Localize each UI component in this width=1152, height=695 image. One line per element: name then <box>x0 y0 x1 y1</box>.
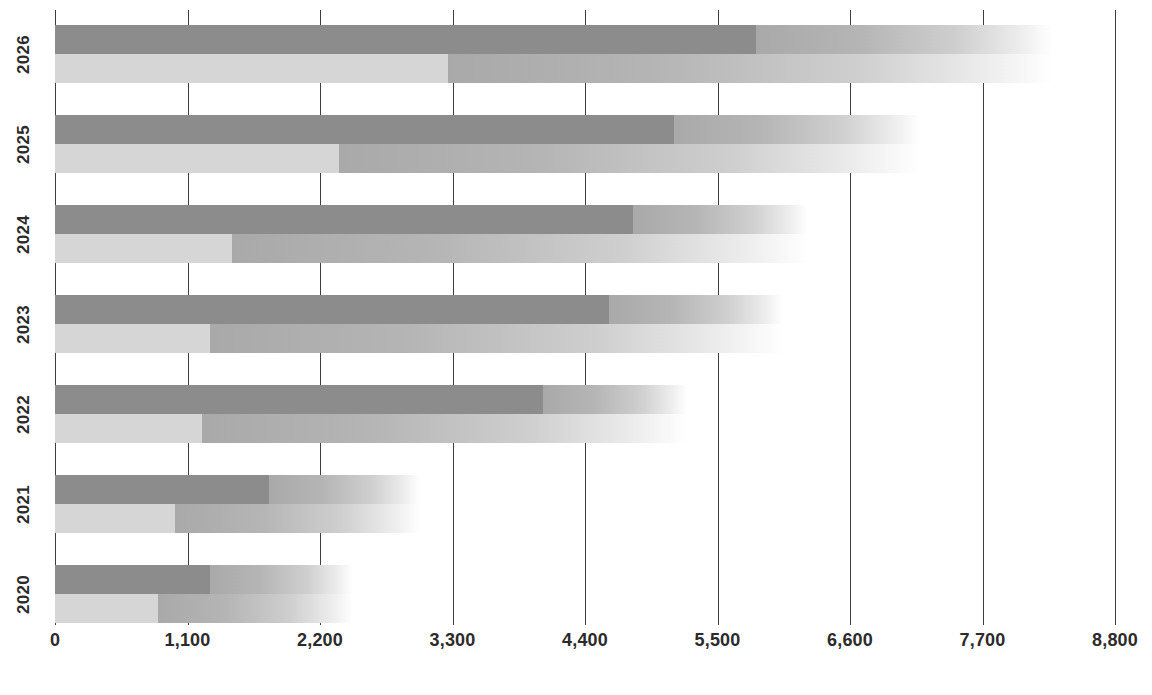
y-axis-label-2024: 2024 <box>0 205 48 263</box>
y-axis-label-2023: 2023 <box>0 295 48 353</box>
bar-upper-projection-2022 <box>543 385 688 414</box>
bar-upper-value-2025 <box>55 115 674 144</box>
bar-upper-2025 <box>55 115 1115 144</box>
x-axis-tick-4400: 4,400 <box>562 630 608 651</box>
bar-upper-value-2020 <box>55 565 210 594</box>
x-axis-tick-1100: 1,100 <box>164 630 210 651</box>
x-axis-tick-3300: 3,300 <box>429 630 475 651</box>
bar-group-2026 <box>55 25 1115 83</box>
bar-group-2022 <box>55 385 1115 443</box>
y-axis-label-2026: 2026 <box>0 25 48 83</box>
bar-chart: 2026202520242023202220212020 01,1002,200… <box>0 0 1152 695</box>
bar-lower-2021 <box>55 504 1115 533</box>
y-axis-label-2020: 2020 <box>0 565 48 623</box>
bar-lower-projection-2026 <box>448 54 1053 83</box>
bar-group-2023 <box>55 295 1115 353</box>
bar-upper-2023 <box>55 295 1115 324</box>
bar-upper-value-2024 <box>55 205 633 234</box>
bar-lower-value-2022 <box>55 414 202 443</box>
bar-lower-2023 <box>55 324 1115 353</box>
bar-upper-projection-2025 <box>674 115 920 144</box>
bar-upper-2024 <box>55 205 1115 234</box>
bar-group-2025 <box>55 115 1115 173</box>
plot-area <box>55 0 1115 625</box>
bar-lower-value-2020 <box>55 594 158 623</box>
bar-lower-value-2026 <box>55 54 448 83</box>
bar-upper-2026 <box>55 25 1115 54</box>
gridline-8800 <box>1115 10 1116 625</box>
bar-lower-value-2024 <box>55 234 232 263</box>
bar-upper-projection-2023 <box>609 295 782 324</box>
x-axis-tick-5500: 5,500 <box>694 630 740 651</box>
bar-upper-value-2023 <box>55 295 609 324</box>
x-axis-tick-7700: 7,700 <box>959 630 1005 651</box>
bar-lower-projection-2020 <box>158 594 353 623</box>
bar-lower-2025 <box>55 144 1115 173</box>
bar-upper-value-2026 <box>55 25 756 54</box>
bar-lower-2020 <box>55 594 1115 623</box>
bar-lower-projection-2023 <box>210 324 782 353</box>
bar-upper-projection-2026 <box>756 25 1052 54</box>
bar-group-2020 <box>55 565 1115 623</box>
bar-upper-projection-2024 <box>633 205 808 234</box>
bar-upper-value-2021 <box>55 475 269 504</box>
x-axis-labels: 01,1002,2003,3004,4005,5006,6007,7008,80… <box>0 630 1152 670</box>
bar-upper-2020 <box>55 565 1115 594</box>
bar-upper-projection-2021 <box>269 475 420 504</box>
bar-lower-2022 <box>55 414 1115 443</box>
bar-upper-value-2022 <box>55 385 543 414</box>
bar-lower-projection-2021 <box>175 504 420 533</box>
bar-lower-projection-2025 <box>339 144 920 173</box>
x-axis-tick-8800: 8,800 <box>1092 630 1138 651</box>
y-axis-label-2022: 2022 <box>0 385 48 443</box>
x-axis-tick-2200: 2,200 <box>297 630 343 651</box>
y-axis-label-2025: 2025 <box>0 115 48 173</box>
bar-lower-value-2021 <box>55 504 175 533</box>
bar-lower-2026 <box>55 54 1115 83</box>
bar-upper-projection-2020 <box>210 565 352 594</box>
bar-lower-value-2025 <box>55 144 339 173</box>
bar-lower-projection-2022 <box>202 414 687 443</box>
y-axis-label-2021: 2021 <box>0 475 48 533</box>
bar-group-2024 <box>55 205 1115 263</box>
bar-lower-2024 <box>55 234 1115 263</box>
x-axis-tick-6600: 6,600 <box>827 630 873 651</box>
bar-upper-2022 <box>55 385 1115 414</box>
x-axis-tick-0: 0 <box>50 630 60 651</box>
bar-lower-value-2023 <box>55 324 210 353</box>
bar-group-2021 <box>55 475 1115 533</box>
bar-upper-2021 <box>55 475 1115 504</box>
bar-lower-projection-2024 <box>232 234 808 263</box>
